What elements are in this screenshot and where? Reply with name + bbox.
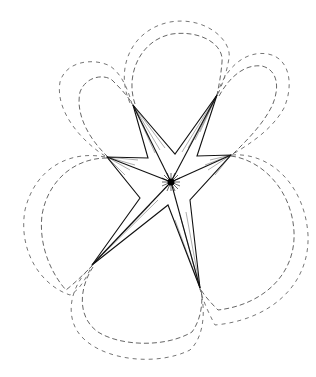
left-loop-outer <box>24 156 105 295</box>
top-loop-outer <box>124 21 229 103</box>
center-hub <box>162 173 180 191</box>
star-drawing <box>0 0 316 377</box>
upper-left-loop-outer <box>59 62 132 156</box>
left-loop-inner <box>41 158 107 290</box>
right-loop-outer <box>200 155 308 325</box>
top-loop-inner <box>132 33 222 104</box>
upper-left-loop-inner <box>79 77 133 157</box>
bottom-loop-outer <box>71 266 203 359</box>
bottom-loop-inner <box>82 267 202 343</box>
right-loop-inner <box>200 156 294 310</box>
star-spokes <box>92 95 231 288</box>
upper-right-loop-inner <box>219 66 277 155</box>
upper-right-loop-outer <box>217 53 289 154</box>
dashed-loops <box>24 21 308 359</box>
